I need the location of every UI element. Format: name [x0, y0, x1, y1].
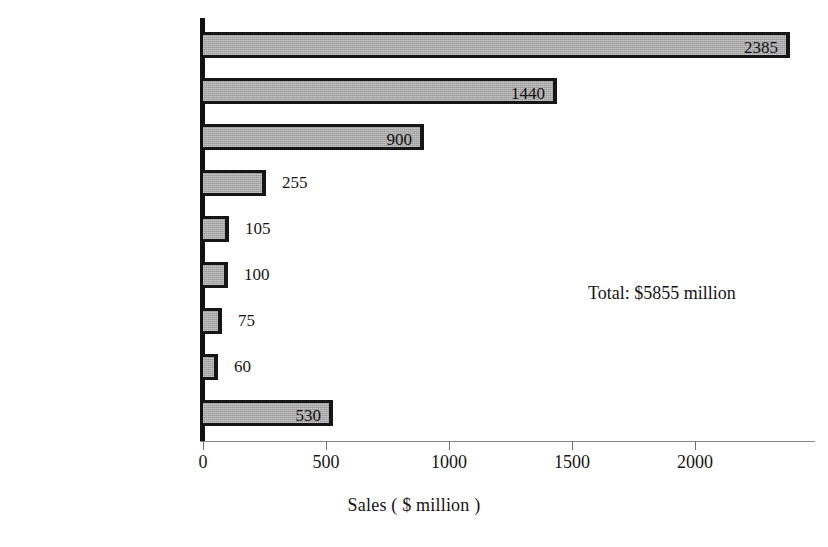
x-tick-label: 0 [199, 452, 208, 473]
bar-value-label: 900 [387, 127, 413, 153]
bar-cotton [203, 216, 229, 242]
bar-value-label: 75 [238, 308, 255, 334]
x-tick-label: 500 [313, 452, 340, 473]
bar-value-label: 530 [296, 403, 322, 429]
bar-value-label: 105 [245, 216, 271, 242]
bar-value-label: 2385 [744, 35, 778, 61]
bar-sugarbeet [203, 308, 222, 334]
bar-others: 530 [203, 400, 333, 426]
x-axis-line [200, 441, 815, 442]
bar-rice: 900 [203, 124, 424, 150]
bar-cereals: 1440 [203, 78, 557, 104]
x-tick-mark [326, 441, 327, 450]
bar-value-label: 1440 [511, 81, 545, 107]
bar-chart: Fruits and vegetables 2385 Cereals 1440 … [0, 0, 828, 547]
total-annotation: Total: $5855 million [588, 283, 736, 304]
bar-value-label: 60 [234, 354, 251, 380]
x-tick-mark [203, 441, 204, 450]
bar-value-label: 255 [282, 170, 308, 196]
bar-potato [203, 170, 266, 196]
bar-soybean [203, 354, 218, 380]
bar-fruits-and-vegetables: 2385 [203, 32, 790, 58]
plot-area: Fruits and vegetables 2385 Cereals 1440 … [0, 0, 828, 547]
x-tick-mark [572, 441, 573, 450]
x-tick-label: 2000 [677, 452, 713, 473]
x-tick-label: 1500 [554, 452, 590, 473]
x-tick-mark [695, 441, 696, 450]
x-tick-label: 1000 [431, 452, 467, 473]
x-tick-mark [449, 441, 450, 450]
bar-value-label: 100 [244, 262, 270, 288]
x-axis-title: Sales ( $ million ) [0, 495, 828, 516]
bar-maize [203, 262, 228, 288]
